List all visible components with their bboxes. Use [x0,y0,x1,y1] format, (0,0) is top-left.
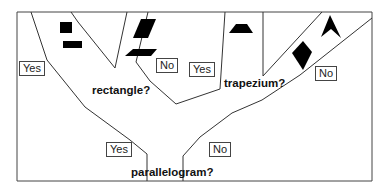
arrowhead-shape [321,15,341,38]
branch-line-rect-yes-inner [71,12,115,68]
parallelogram-upright-shape [133,19,156,38]
kite-shape [292,41,312,70]
trapezium-no-label: No [315,66,337,81]
parallelogram-no-label: No [209,142,231,157]
branch-line-rect-no-inner [115,12,127,68]
rectangle-no-label: No [156,58,178,73]
branch-line-trap-no-inner [263,12,322,76]
trapezium-question: trapezium? [224,77,285,89]
parallelogram-yes-label: Yes [106,142,132,157]
trapezium-yes-label: Yes [189,62,215,77]
trapezium-shape [229,24,253,33]
parallelogram-flat-shape [125,49,157,56]
rectangle-yes-label: Yes [19,61,45,76]
square-shape [60,22,72,33]
frame-outline [17,12,372,181]
decision-tree-lines [0,0,388,192]
rectangle-shape [63,41,82,48]
parallelogram-question: parallelogram? [131,166,213,178]
rectangle-question: rectangle? [92,84,150,96]
